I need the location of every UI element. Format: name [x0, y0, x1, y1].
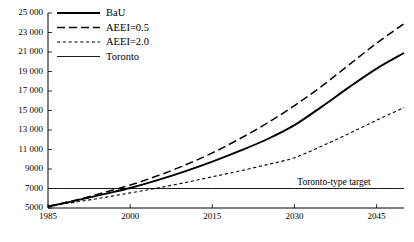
toronto-type-target: Toronto-type target — [297, 177, 370, 187]
x-axis-tick-label: 2000 — [105, 212, 155, 221]
y-axis-tick-label: 25 000 — [0, 8, 43, 17]
legend-label-bau: BaU — [106, 7, 125, 18]
chart-figure: 50007000900011 00013 00015 00017 00019 0… — [0, 0, 414, 242]
y-axis-tick-label: 9000 — [0, 164, 43, 173]
legend-label-aeei-0-5: AEEI=0.5 — [106, 22, 149, 33]
y-axis-tick-label: 7000 — [0, 184, 43, 193]
y-axis-tick-label: 11 000 — [0, 145, 43, 154]
y-axis-tick-label: 15 000 — [0, 106, 43, 115]
y-axis-tick-label: 19 000 — [0, 67, 43, 76]
x-axis-tick-label: 2015 — [187, 212, 237, 221]
legend-label-aeei-2-0: AEEI=2.0 — [106, 36, 149, 47]
x-axis-tick-label: 1985 — [23, 212, 73, 221]
legend-label-toronto: Toronto — [106, 51, 139, 62]
x-axis-tick-label: 2045 — [352, 212, 402, 221]
y-axis-tick-label: 13 000 — [0, 125, 43, 134]
y-axis-tick-label: 5000 — [0, 203, 43, 212]
y-axis-tick-label: 23 000 — [0, 28, 43, 37]
y-axis-tick-label: 21 000 — [0, 47, 43, 56]
chart-legend-lines — [57, 13, 100, 57]
chart-plot-area — [0, 0, 414, 242]
x-axis-tick-label: 2030 — [269, 212, 319, 221]
y-axis-tick-label: 17 000 — [0, 86, 43, 95]
